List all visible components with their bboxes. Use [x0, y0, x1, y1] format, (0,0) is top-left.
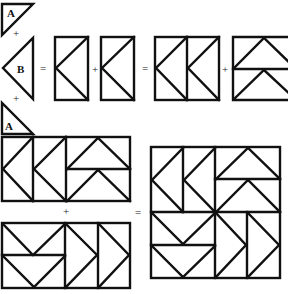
geese-square [233, 37, 288, 100]
flying-geese-unit-1 [55, 37, 88, 100]
equals-operator: = [142, 62, 148, 74]
triangle-a-top-label: A [7, 7, 15, 19]
equals-operator: = [40, 62, 46, 74]
triangle-b-label: B [17, 63, 25, 75]
triangle-a-bottom: A [2, 103, 33, 134]
finished-block [151, 147, 280, 278]
plus-operator: + [222, 63, 228, 75]
half-block-top [2, 137, 130, 201]
flying-geese-unit-2 [101, 37, 134, 100]
triangle-a-bottom-label: A [5, 120, 13, 132]
two-unit-square [155, 37, 219, 100]
plus-operator: + [13, 92, 19, 104]
quilt-assembly-diagram: A + B + A = + = + [0, 0, 288, 294]
plus-operator: + [63, 205, 69, 217]
plus-operator: + [13, 27, 19, 39]
equals-operator: = [135, 206, 141, 218]
plus-operator: + [92, 63, 98, 75]
triangle-b: B [3, 38, 33, 99]
half-block-bottom [2, 223, 130, 288]
